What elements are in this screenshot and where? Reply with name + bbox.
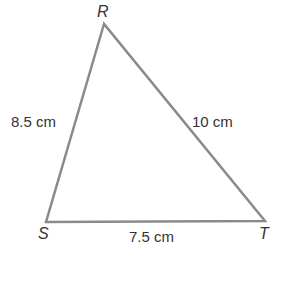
side-label-st: 7.5 cm <box>129 229 174 244</box>
side-label-rs: 8.5 cm <box>11 114 56 129</box>
vertex-label-s: S <box>38 226 49 242</box>
vertex-label-r: R <box>97 4 109 20</box>
vertex-label-t: T <box>259 226 269 242</box>
side-label-rt: 10 cm <box>192 114 233 129</box>
